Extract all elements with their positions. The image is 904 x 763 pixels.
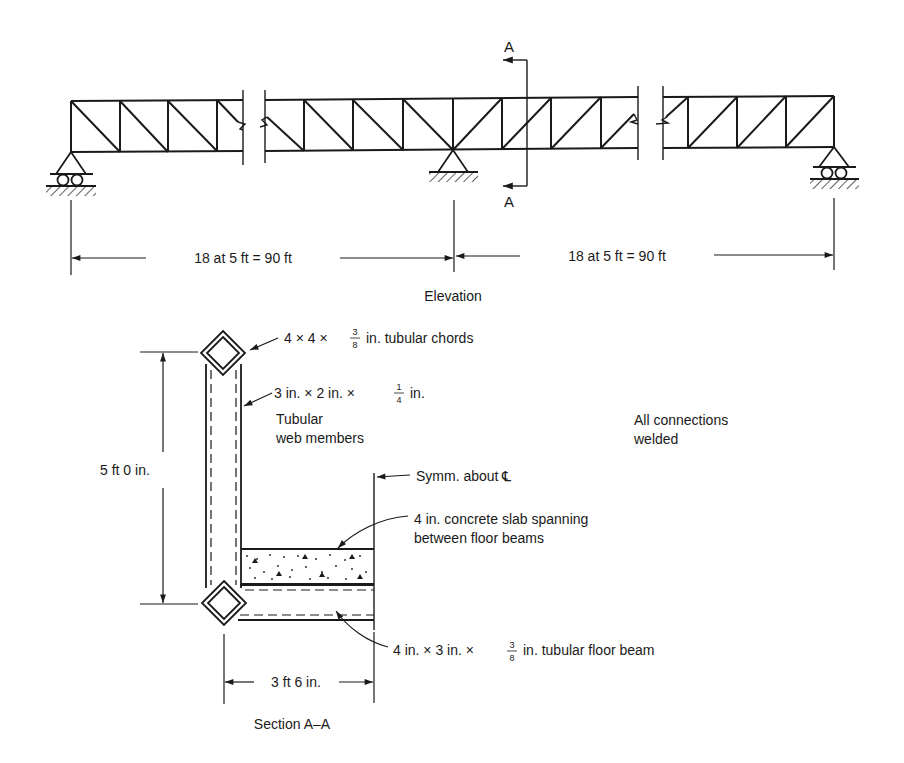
aggregate-dot	[297, 555, 299, 557]
section-marker-bottom: A	[504, 193, 514, 210]
web-label-fraction-num: 1	[396, 382, 401, 392]
aggregate-dot	[246, 555, 248, 557]
chord-label-pre: 4 × 4 ×	[284, 330, 328, 346]
aggregate-stone	[319, 572, 325, 577]
section-view	[201, 331, 374, 630]
aggregate-dot	[329, 554, 331, 556]
span-dimensions	[71, 198, 834, 275]
truss-elevation	[71, 86, 834, 165]
aggregate-stone	[349, 554, 355, 559]
floor-beam	[238, 585, 374, 620]
aggregate-dot	[256, 558, 258, 560]
beam-label-pre: 4 in. × 3 in. ×	[393, 642, 474, 658]
dimension-left-span: 18 at 5 ft = 90 ft	[194, 250, 292, 266]
beam-label-fraction-num: 3	[509, 640, 514, 650]
chord-label-fraction-num: 3	[352, 327, 357, 337]
slab-label-line1: 4 in. concrete slab spanning	[414, 511, 588, 527]
section-marker-top: A	[504, 38, 514, 55]
bottom-chord-tube	[202, 581, 246, 625]
dimension-right-span: 18 at 5 ft = 90 ft	[568, 248, 666, 264]
aggregate-dot	[289, 576, 291, 578]
chord-label-fraction-den: 8	[352, 340, 357, 350]
aggregate-stone	[357, 574, 363, 579]
chord-label: 4 × 4 × 3 8 in. tubular chords	[284, 327, 473, 350]
aggregate-stone	[302, 554, 308, 559]
break-line	[238, 90, 267, 165]
roller-support-right	[810, 147, 859, 189]
aggregate-dot	[315, 558, 317, 560]
aggregate-dot	[277, 565, 279, 567]
section-cut-marker	[503, 60, 527, 186]
floor-beam-label: 4 in. × 3 in. × 3 8 in. tubular floor be…	[393, 640, 655, 663]
slab-label-line2: between floor beams	[414, 530, 544, 546]
truss-segment-right	[663, 96, 834, 148]
web-label-line2: Tubular	[276, 411, 323, 427]
aggregate-dot	[335, 565, 337, 567]
web-label-post: in.	[410, 385, 425, 401]
aggregate-dot	[344, 559, 346, 561]
width-dimension-label: 3 ft 6 in.	[271, 674, 321, 690]
section-caption: Section A–A	[254, 716, 331, 732]
web-label-fraction-den: 4	[396, 395, 401, 405]
concrete-slab	[241, 549, 374, 584]
height-dimension-label: 5 ft 0 in.	[100, 462, 150, 478]
aggregate-dot	[254, 577, 256, 579]
width-dimension	[224, 632, 374, 704]
aggregate-dot	[291, 569, 293, 571]
aggregate-dot	[351, 568, 353, 570]
aggregate-dot	[305, 566, 307, 568]
note-line2: welded	[633, 431, 678, 447]
concrete-aggregate	[246, 554, 367, 580]
aggregate-dot	[263, 571, 265, 573]
note-line1: All connections	[634, 412, 728, 428]
web-label: 3 in. × 2 in. × 1 4 in. Tubular web memb…	[274, 382, 425, 446]
elevation-caption: Elevation	[424, 288, 482, 304]
height-dimension	[140, 352, 198, 604]
aggregate-dot	[249, 567, 251, 569]
top-chord-tube	[201, 331, 245, 375]
aggregate-dot	[359, 555, 361, 557]
truss-drawing: A A 18 at 5 ft = 90 ft 18 at 5 ft = 90 f…	[0, 0, 904, 763]
aggregate-dot	[271, 578, 273, 580]
chord-label-post: in. tubular chords	[366, 330, 473, 346]
aggregate-stone	[276, 571, 282, 576]
aggregate-dot	[309, 578, 311, 580]
web-label-line3: web members	[275, 430, 364, 446]
truss-segment-middle	[265, 97, 638, 151]
web-label-pre: 3 in. × 2 in. ×	[274, 385, 355, 401]
beam-label-post: in. tubular floor beam	[523, 642, 655, 658]
symmetry-label: Symm. about ℄	[416, 468, 511, 484]
aggregate-dot	[345, 578, 347, 580]
pin-support-middle	[429, 150, 478, 182]
aggregate-dot	[365, 571, 367, 573]
aggregate-dot	[269, 554, 271, 556]
aggregate-dot	[283, 556, 285, 558]
aggregate-dot	[327, 577, 329, 579]
beam-label-fraction-den: 8	[509, 653, 514, 663]
truss-segment-left	[71, 100, 243, 152]
roller-support-left	[46, 152, 96, 196]
